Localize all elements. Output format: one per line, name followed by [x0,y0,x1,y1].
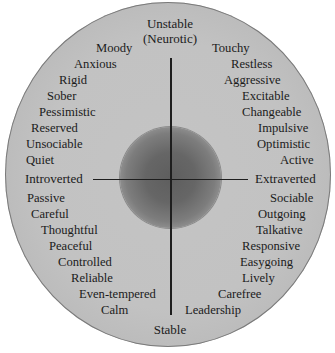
trait-even-tempered: Even-tempered [79,288,156,301]
trait-easygoing: Easygoing [240,256,293,269]
trait-lively: Lively [242,272,275,285]
trait-moody: Moody [96,42,132,55]
axis-label-top: Unstable [147,17,193,30]
horizontal-axis-line [93,179,248,181]
axis-label-bottom: Stable [154,323,187,336]
trait-quiet: Quiet [26,154,54,167]
trait-optimistic: Optimistic [257,138,310,151]
trait-anxious: Anxious [74,58,117,71]
trait-active: Active [280,154,314,167]
trait-leadership: Leadership [185,304,241,317]
trait-changeable: Changeable [242,106,301,119]
trait-thoughtful: Thoughtful [41,224,98,237]
axis-label-left: Introverted [25,172,83,185]
trait-restless: Restless [231,58,272,71]
trait-reserved: Reserved [31,122,78,135]
trait-impulsive: Impulsive [258,122,308,135]
trait-touchy: Touchy [212,42,250,55]
trait-rigid: Rigid [59,74,87,87]
axis-label-top-sub: (Neurotic) [143,32,197,45]
trait-reliable: Reliable [71,272,113,285]
trait-carefree: Carefree [218,288,261,301]
vertical-axis-line [170,58,172,315]
trait-peaceful: Peaceful [49,240,92,253]
trait-talkative: Talkative [256,224,303,237]
trait-unsociable: Unsociable [26,138,83,151]
axis-label-right: Extraverted [255,172,316,185]
trait-passive: Passive [27,192,65,205]
trait-aggressive: Aggressive [224,74,281,87]
trait-outgoing: Outgoing [258,208,306,221]
trait-pessimistic: Pessimistic [39,106,96,119]
trait-controlled: Controlled [58,256,112,269]
trait-responsive: Responsive [242,240,300,253]
trait-sociable: Sociable [270,192,313,205]
trait-sober: Sober [47,90,76,103]
trait-excitable: Excitable [242,90,290,103]
trait-calm: Calm [101,304,128,317]
trait-careful: Careful [31,208,69,221]
